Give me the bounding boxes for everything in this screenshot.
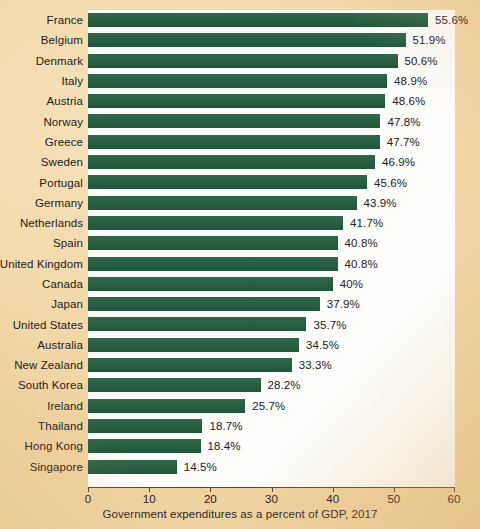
bar-row: Portugal45.6% bbox=[0, 172, 480, 192]
bar-track: 43.9% bbox=[88, 193, 455, 213]
bar bbox=[88, 439, 201, 453]
bar bbox=[88, 196, 357, 210]
bar-row: Denmark50.6% bbox=[0, 51, 480, 71]
bar-track: 18.7% bbox=[88, 416, 455, 436]
bar bbox=[88, 378, 261, 392]
category-label: Australia bbox=[37, 339, 83, 351]
bar-row: South Korea28.2% bbox=[0, 375, 480, 395]
bar bbox=[88, 74, 387, 88]
bar bbox=[88, 114, 380, 128]
category-label: Belgium bbox=[41, 34, 83, 46]
bar bbox=[88, 175, 367, 189]
bar-row: Singapore14.5% bbox=[0, 457, 480, 477]
x-axis-tick bbox=[210, 487, 211, 492]
bar-row: Thailand18.7% bbox=[0, 416, 480, 436]
bar-value-label: 51.9% bbox=[413, 34, 446, 46]
bar bbox=[88, 419, 202, 433]
bar bbox=[88, 297, 320, 311]
x-axis-tick-label: 60 bbox=[448, 493, 461, 505]
category-label: Japan bbox=[51, 298, 83, 310]
bar-row: Sweden46.9% bbox=[0, 152, 480, 172]
bar bbox=[88, 358, 292, 372]
category-label: Spain bbox=[53, 237, 83, 249]
bar-row: Italy48.9% bbox=[0, 71, 480, 91]
bar-value-label: 18.4% bbox=[208, 440, 241, 452]
bar-row: Hong Kong18.4% bbox=[0, 436, 480, 456]
x-axis-tick bbox=[394, 487, 395, 492]
bar-value-label: 48.9% bbox=[394, 75, 427, 87]
category-label: Austria bbox=[47, 95, 84, 107]
category-label: Canada bbox=[42, 278, 83, 290]
bar-track: 48.9% bbox=[88, 71, 455, 91]
bar bbox=[88, 236, 338, 250]
bar-row: Canada40% bbox=[0, 274, 480, 294]
bar-value-label: 18.7% bbox=[209, 420, 242, 432]
bar-track: 37.9% bbox=[88, 294, 455, 314]
bar-track: 40.8% bbox=[88, 233, 455, 253]
bar-track: 18.4% bbox=[88, 436, 455, 456]
bar-value-label: 47.7% bbox=[387, 136, 420, 148]
bar bbox=[88, 54, 398, 68]
bar-track: 40% bbox=[88, 274, 455, 294]
bar bbox=[88, 257, 338, 271]
bar-row: Spain40.8% bbox=[0, 233, 480, 253]
bar-row: Australia34.5% bbox=[0, 335, 480, 355]
bar bbox=[88, 13, 428, 27]
x-axis-tick-label: 10 bbox=[143, 493, 156, 505]
bar-value-label: 48.6% bbox=[392, 95, 425, 107]
bar-track: 47.7% bbox=[88, 132, 455, 152]
category-label: Denmark bbox=[36, 55, 83, 67]
bar-row: Norway47.8% bbox=[0, 111, 480, 131]
bar-track: 35.7% bbox=[88, 314, 455, 334]
chart-figure: France55.6%Belgium51.9%Denmark50.6%Italy… bbox=[0, 0, 480, 529]
category-label: United Kingdom bbox=[0, 258, 83, 270]
bar bbox=[88, 399, 245, 413]
bar-track: 50.6% bbox=[88, 51, 455, 71]
bar bbox=[88, 94, 385, 108]
bar-value-label: 40.8% bbox=[345, 237, 378, 249]
bar-row: United Kingdom40.8% bbox=[0, 254, 480, 274]
bar bbox=[88, 135, 380, 149]
bar bbox=[88, 33, 406, 47]
category-label: Norway bbox=[43, 116, 83, 128]
bar-row: New Zealand33.3% bbox=[0, 355, 480, 375]
x-axis-tick bbox=[272, 487, 273, 492]
bar-value-label: 45.6% bbox=[374, 177, 407, 189]
category-label: Singapore bbox=[30, 461, 83, 473]
x-axis-tick-label: 50 bbox=[387, 493, 400, 505]
category-label: Hong Kong bbox=[25, 440, 83, 452]
bar-track: 45.6% bbox=[88, 172, 455, 192]
bar bbox=[88, 460, 177, 474]
chart-caption: Government expenditures as a percent of … bbox=[0, 508, 480, 520]
bar-value-label: 40% bbox=[340, 278, 363, 290]
bar-rows: France55.6%Belgium51.9%Denmark50.6%Italy… bbox=[0, 10, 480, 477]
bar-value-label: 14.5% bbox=[184, 461, 217, 473]
category-label: Italy bbox=[61, 75, 83, 87]
bar bbox=[88, 155, 375, 169]
bar-track: 48.6% bbox=[88, 91, 455, 111]
bar-value-label: 35.7% bbox=[313, 319, 346, 331]
bar-row: Japan37.9% bbox=[0, 294, 480, 314]
bar-row: France55.6% bbox=[0, 10, 480, 30]
category-label: Sweden bbox=[41, 156, 83, 168]
bar-row: Netherlands41.7% bbox=[0, 213, 480, 233]
x-axis-tick bbox=[88, 487, 89, 492]
bar-row: Ireland25.7% bbox=[0, 396, 480, 416]
x-axis-tick-label: 0 bbox=[85, 493, 91, 505]
bar-row: Greece47.7% bbox=[0, 132, 480, 152]
bar-value-label: 50.6% bbox=[405, 55, 438, 67]
x-axis-tick bbox=[454, 487, 455, 492]
bar-track: 34.5% bbox=[88, 335, 455, 355]
bar-row: United States35.7% bbox=[0, 314, 480, 334]
x-axis-tick-label: 20 bbox=[204, 493, 217, 505]
bar-value-label: 47.8% bbox=[387, 116, 420, 128]
bar-track: 46.9% bbox=[88, 152, 455, 172]
bar-value-label: 25.7% bbox=[252, 400, 285, 412]
bar bbox=[88, 317, 306, 331]
category-label: Ireland bbox=[47, 400, 83, 412]
category-label: Germany bbox=[35, 197, 83, 209]
x-axis-tick bbox=[333, 487, 334, 492]
category-label: United States bbox=[13, 319, 83, 331]
bar-track: 28.2% bbox=[88, 375, 455, 395]
category-label: Thailand bbox=[38, 420, 83, 432]
